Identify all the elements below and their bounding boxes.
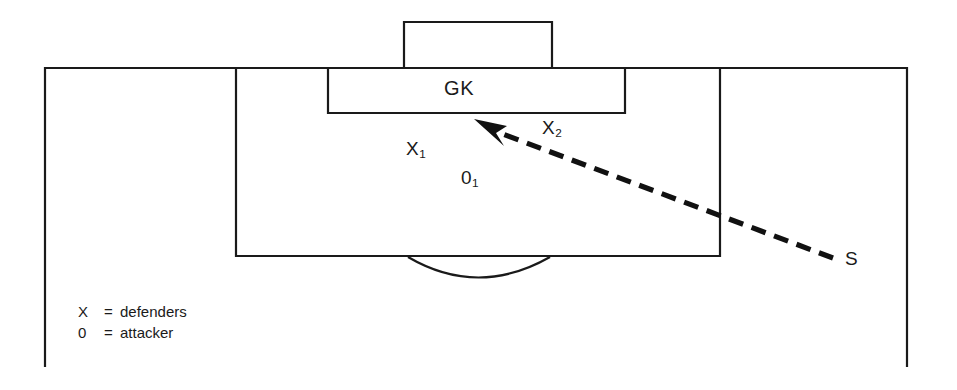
player-marker-x1: X1 [406, 139, 426, 158]
legend-symbol-defenders: X [78, 303, 104, 320]
goal-area [328, 68, 625, 113]
legend-text-defenders: defenders [120, 303, 187, 320]
penalty-area [236, 68, 720, 256]
shot-path-dashed-line [492, 130, 833, 258]
legend: X = defenders 0 = attacker [78, 303, 187, 345]
soccer-diagram: GK X1 X2 01 S X = defenders 0 = attacker [0, 0, 957, 390]
player-marker-x2: X2 [542, 118, 562, 137]
player-marker-o1-subscript: 1 [472, 176, 479, 189]
player-marker-x1-letter: X [406, 138, 419, 159]
legend-row-attacker: 0 = attacker [78, 324, 187, 345]
goalkeeper-label-text: GK [444, 77, 474, 99]
player-marker-o1: 01 [461, 168, 479, 187]
player-marker-x1-subscript: 1 [419, 147, 426, 160]
goalkeeper-label: GK [444, 78, 474, 98]
legend-row-defenders: X = defenders [78, 303, 187, 324]
goal-net [404, 22, 552, 68]
legend-equals-defenders: = [104, 303, 120, 320]
shot-origin-label-text: S [845, 248, 858, 269]
legend-equals-attacker: = [104, 324, 120, 341]
legend-symbol-attacker: 0 [78, 324, 104, 341]
player-marker-x2-subscript: 2 [555, 126, 562, 139]
legend-text-attacker: attacker [120, 324, 173, 341]
player-marker-x2-letter: X [542, 117, 555, 138]
player-marker-o1-letter: 0 [461, 167, 472, 188]
shot-arrow-head [474, 119, 507, 146]
penalty-arc [408, 257, 550, 278]
shot-origin-label: S [845, 249, 858, 268]
